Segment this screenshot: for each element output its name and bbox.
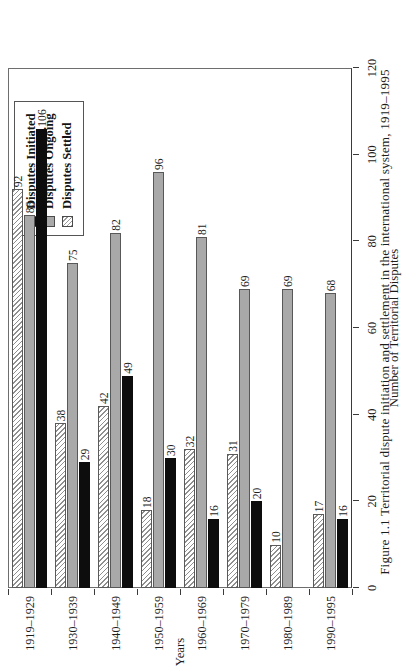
bar-settled: 32: [184, 449, 195, 588]
bar-value-label: 69: [238, 275, 251, 287]
bar-ongoing: 69: [239, 289, 250, 588]
category-axis-tick: [266, 589, 267, 595]
bar-ongoing: 68: [325, 293, 336, 588]
bars-canvas: 0204060801001201919–192992861061930–1939…: [8, 68, 352, 588]
chart-plot-area: 0204060801001201919–192992861061930–1939…: [8, 68, 352, 588]
bar-settled: 18: [141, 510, 152, 588]
bar-settled: 17: [313, 514, 324, 588]
bar-value-label: 16: [336, 505, 349, 517]
category-axis-label: 1919–1929: [22, 596, 37, 670]
category-axis-tick: [51, 589, 52, 595]
bar-value-label: 96: [152, 158, 165, 170]
figure-caption: Figure 1.1 Territorial dispute initiatio…: [368, 0, 402, 644]
category-axis-tick: [352, 589, 353, 595]
bar-value-label: 42: [97, 392, 110, 404]
category-axis-label: 1940–1949: [108, 596, 123, 670]
bar-value-label: 29: [78, 449, 91, 461]
bar-initiated: 106: [36, 129, 47, 588]
category-axis-label: 1960–1969: [194, 596, 209, 670]
bar-initiated: 49: [122, 376, 133, 588]
bar-ongoing: 82: [110, 233, 121, 588]
bar-ongoing: 69: [282, 289, 293, 588]
bar-initiated: 20: [251, 501, 262, 588]
bar-settled: 92: [12, 189, 23, 588]
bar-value-label: 68: [324, 280, 337, 292]
value-axis-tick: [353, 414, 359, 415]
bar-value-label: 86: [23, 202, 36, 214]
bar-value-label: 81: [195, 223, 208, 235]
bar-value-label: 38: [54, 410, 67, 422]
bar-value-label: 75: [66, 249, 79, 261]
category-axis-label: 1990–1995: [323, 596, 338, 670]
bar-value-label: 18: [140, 496, 153, 508]
bar-ongoing: 86: [24, 215, 35, 588]
category-axis-label: 1930–1939: [65, 596, 80, 670]
bar-value-label: 20: [250, 488, 263, 500]
bar-ongoing: 81: [196, 237, 207, 588]
category-axis-label: 1950–1959: [151, 596, 166, 670]
category-axis-label: 1970–1979: [237, 596, 252, 670]
category-axis-tick: [94, 589, 95, 595]
bar-initiated: 30: [165, 458, 176, 588]
bar-value-label: 17: [312, 501, 325, 513]
bar-settled: 31: [227, 454, 238, 588]
bar-settled: 10: [270, 545, 281, 588]
bar-value-label: 69: [281, 275, 294, 287]
value-axis-tick: [353, 154, 359, 155]
bar-settled: 38: [55, 423, 66, 588]
bar-ongoing: 96: [153, 172, 164, 588]
value-axis-tick: [353, 240, 359, 241]
category-axis-tick: [137, 589, 138, 595]
bar-initiated: 29: [79, 462, 90, 588]
category-axis-tick: [8, 589, 9, 595]
bar-value-label: 82: [109, 219, 122, 231]
value-axis-tick: [353, 500, 359, 501]
bar-ongoing: 75: [67, 263, 78, 588]
value-axis-tick: [353, 67, 359, 68]
bar-value-label: 10: [269, 531, 282, 543]
bar-value-label: 49: [121, 362, 134, 374]
bar-initiated: 16: [208, 519, 219, 588]
bar-value-label: 92: [11, 176, 24, 188]
value-axis-tick: [353, 587, 359, 588]
category-axis-tick: [309, 589, 310, 595]
category-axis-title: Years: [173, 592, 188, 670]
value-axis-tick: [353, 327, 359, 328]
bar-value-label: 32: [183, 436, 196, 448]
bar-value-label: 31: [226, 440, 239, 452]
category-axis-tick: [223, 589, 224, 595]
bar-value-label: 30: [164, 444, 177, 456]
bar-value-label: 106: [35, 109, 48, 126]
bar-value-label: 16: [207, 505, 220, 517]
category-axis-label: 1980–1989: [280, 596, 295, 670]
bar-initiated: 16: [337, 519, 348, 588]
bar-settled: 42: [98, 406, 109, 588]
